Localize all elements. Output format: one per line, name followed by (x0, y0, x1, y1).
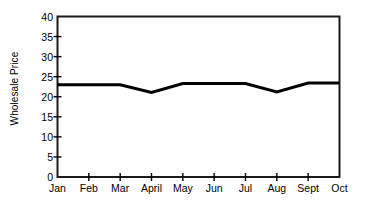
x-axis-tick-label: Jul (239, 183, 252, 194)
x-axis-tick-label: April (141, 183, 162, 194)
x-axis-tick-label: Oct (331, 183, 347, 194)
x-axis-tick-label: Aug (267, 183, 286, 194)
x-axis-tick-label: Sept (297, 183, 319, 194)
line-chart: Wholesale Price 0510152025303540 JanFebM… (0, 0, 366, 213)
x-axis-tick-label: Jun (206, 183, 223, 194)
x-axis-tick-label: Jan (49, 183, 66, 194)
x-axis-tick-label: Mar (111, 183, 129, 194)
x-axis-tick-label: May (173, 183, 193, 194)
x-axis-tick-label: Feb (80, 183, 98, 194)
plot-frame (58, 17, 340, 178)
